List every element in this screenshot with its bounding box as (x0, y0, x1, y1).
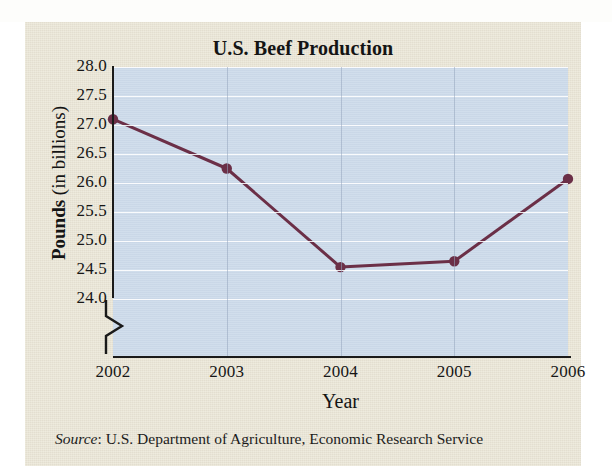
x-axis-tick-label: 2005 (414, 362, 494, 382)
chart-title: U.S. Beef Production (25, 37, 581, 60)
source-text: : U.S. Department of Agriculture, Econom… (97, 430, 483, 447)
y-axis-title-bold: Pounds (48, 200, 69, 260)
x-axis-tick-label: 2006 (528, 362, 608, 382)
source-label: Source (55, 430, 97, 447)
x-axis-tick-label: 2003 (187, 362, 267, 382)
vertical-gridline (341, 67, 342, 356)
vertical-gridline (454, 67, 455, 356)
y-axis-tick-label: 28.0 (39, 56, 107, 76)
y-axis-title-light: (in billions) (48, 106, 69, 200)
x-axis-line (113, 356, 571, 358)
cropped-text-line: g p g (40, 0, 570, 1)
figure-panel: U.S. Beef Production 28.027.527.026.526.… (25, 22, 581, 466)
page-top-text-sliver: g p g (0, 0, 612, 22)
x-axis-title: Year (113, 390, 568, 413)
plot-area (113, 67, 568, 356)
y-axis-title: Pounds (in billions) (48, 83, 70, 283)
y-axis-tick-label: 24.0 (39, 288, 107, 308)
y-axis-line (112, 66, 114, 298)
vertical-gridline (227, 67, 228, 356)
x-axis-tick-label: 2002 (73, 362, 153, 382)
source-note: Source: U.S. Department of Agriculture, … (55, 430, 483, 448)
x-axis-tick-label: 2004 (301, 362, 381, 382)
y-axis-tick-labels: 28.027.527.026.526.025.525.024.524.0 (33, 22, 107, 466)
